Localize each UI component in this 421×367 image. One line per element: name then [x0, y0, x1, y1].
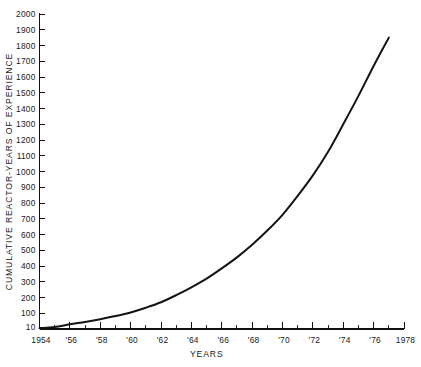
y-axis-tick-label: 1200: [16, 135, 36, 145]
y-axis-title: CUMULATIVE REACTOR-YEARS OF EXPERIENCE: [4, 53, 14, 290]
y-axis-tick-label: 10: [26, 322, 36, 332]
y-axis-tick-label: 1800: [16, 41, 36, 51]
x-axis-tick-group: [40, 322, 405, 329]
data-series-line: [40, 38, 389, 329]
x-axis-tick-label: '66: [217, 335, 229, 345]
x-axis-tick-label: '64: [187, 335, 199, 345]
y-axis-tick-label: 1300: [16, 119, 36, 129]
y-axis-tick-label: 2000: [16, 9, 36, 19]
y-axis-tick-label: 1400: [16, 104, 36, 114]
y-axis-tick-label: 200: [21, 293, 36, 303]
x-axis-tick-label: '56: [66, 335, 78, 345]
y-axis-tick-label: 400: [21, 261, 36, 271]
x-axis-tick-label: '62: [157, 335, 169, 345]
y-axis-tick-label: 900: [21, 182, 36, 192]
y-axis-tick-label: 1000: [16, 167, 36, 177]
y-axis-tick-label: 1500: [16, 88, 36, 98]
x-axis-tick-label: '58: [96, 335, 108, 345]
x-axis-tick-label: '68: [248, 335, 260, 345]
x-axis-tick-labels: 1954'56'58'60'62'64'66'68'70'72'74'76197…: [31, 335, 415, 345]
y-axis-tick-label: 1900: [16, 25, 36, 35]
y-axis-tick-label: 300: [21, 277, 36, 287]
x-axis-tick-label: 1978: [396, 335, 416, 345]
x-axis-tick-label: '60: [126, 335, 138, 345]
chart-figure: 1010020030040050060070080090010001100120…: [0, 0, 421, 367]
y-axis-tick-labels: 1010020030040050060070080090010001100120…: [16, 9, 36, 332]
x-axis-tick-label: 1954: [31, 335, 51, 345]
chart-canvas: 1010020030040050060070080090010001100120…: [0, 0, 421, 367]
y-axis-tick-label: 1600: [16, 72, 36, 82]
y-axis-tick-label: 100: [21, 308, 36, 318]
y-axis-tick-group: [40, 14, 46, 327]
y-axis-tick-label: 500: [21, 245, 36, 255]
x-axis-tick-label: '74: [339, 335, 351, 345]
x-axis-title: YEARS: [190, 349, 224, 359]
y-axis-tick-label: 800: [21, 198, 36, 208]
x-axis-tick-label: '76: [369, 335, 381, 345]
x-axis-tick-label: '70: [278, 335, 290, 345]
x-axis-tick-label: '72: [309, 335, 321, 345]
y-axis-tick-label: 700: [21, 214, 36, 224]
y-axis-tick-label: 600: [21, 230, 36, 240]
y-axis-tick-label: 1100: [17, 151, 36, 161]
y-axis-tick-label: 1700: [16, 56, 36, 66]
